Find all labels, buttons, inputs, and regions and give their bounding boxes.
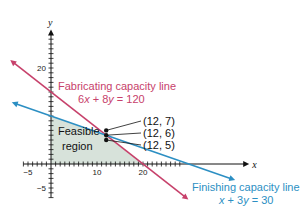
data-point: [104, 138, 108, 142]
x-tick-label: −5: [23, 168, 33, 177]
point-label: (12, 6): [143, 127, 175, 139]
data-point: [104, 128, 108, 132]
feasible-region-label-1: Feasible: [58, 125, 100, 137]
leader-line: [106, 121, 141, 130]
linear-programming-chart: Feasible region Fabricating capacity lin…: [0, 0, 307, 224]
fabricating-line-label: Fabricating capacity line: [58, 80, 176, 92]
finishing-capacity-line: [17, 104, 231, 178]
leader-line: [106, 133, 141, 135]
y-tick-label: 20: [37, 64, 46, 73]
point-label: (12, 5): [143, 139, 175, 151]
y-tick-label: −5: [37, 184, 47, 193]
y-axis-arrow: [48, 29, 54, 35]
point-label: (12, 7): [143, 115, 175, 127]
x-tick-label: 20: [139, 168, 148, 177]
line-arrow-start: [12, 101, 19, 107]
feasible-region-label-2: region: [62, 140, 93, 152]
x-axis-label: x: [251, 159, 257, 170]
y-axis-label: y: [47, 17, 53, 28]
finishing-line-label: Finishing capacity line: [192, 181, 300, 193]
x-axis-arrow: [243, 161, 249, 167]
data-point: [104, 133, 108, 137]
fabricating-line-equation: 6x + 8y = 120: [78, 93, 145, 105]
x-tick-label: 10: [93, 168, 102, 177]
finishing-line-equation: x + 3y = 30: [218, 194, 273, 206]
